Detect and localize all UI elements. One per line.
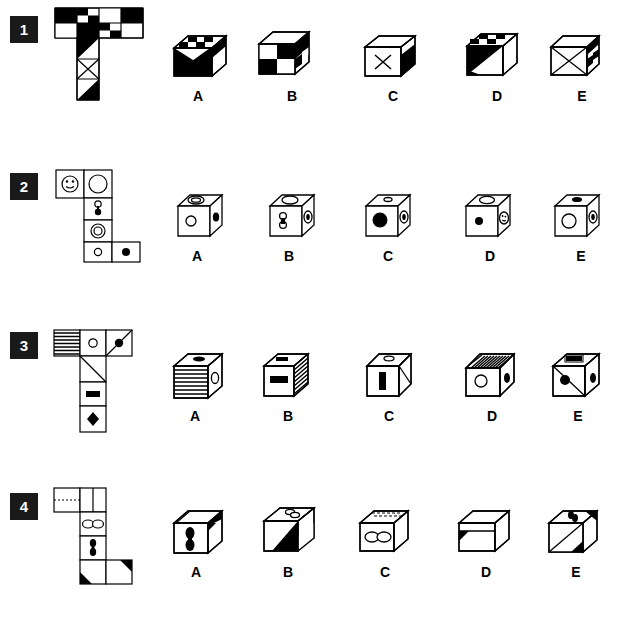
option-label-1-B: B <box>272 88 312 104</box>
question-number-badge-1: 1 <box>10 16 38 43</box>
option-label-3-D: D <box>472 408 512 424</box>
option-label-4-C: C <box>365 564 405 580</box>
option-cube-4-D[interactable] <box>457 507 517 559</box>
option-cube-4-B[interactable] <box>262 505 324 559</box>
option-label-1-A: A <box>178 88 218 104</box>
option-cube-4-C[interactable] <box>358 507 418 559</box>
question-row-3: 3 <box>0 320 621 480</box>
option-label-2-E: E <box>561 248 601 264</box>
question-number-badge-4: 4 <box>10 493 38 520</box>
option-label-4-D: D <box>466 564 506 580</box>
option-label-3-A: A <box>175 408 215 424</box>
question-number-badge-3: 3 <box>10 332 38 359</box>
option-cube-3-B[interactable] <box>262 350 324 404</box>
net-diagram-2 <box>56 170 148 262</box>
option-label-4-A: A <box>176 564 216 580</box>
option-label-1-E: E <box>562 88 602 104</box>
option-label-2-B: B <box>269 248 309 264</box>
option-cube-3-E[interactable] <box>551 350 607 404</box>
option-cube-3-C[interactable] <box>365 350 419 404</box>
option-label-1-D: D <box>477 88 517 104</box>
option-label-3-E: E <box>558 408 598 424</box>
option-label-4-E: E <box>556 564 596 580</box>
option-cube-2-C[interactable] <box>364 192 414 242</box>
option-label-3-C: C <box>369 408 409 424</box>
option-cube-1-A[interactable] <box>172 32 228 80</box>
question-number-badge-2: 2 <box>10 173 38 200</box>
option-cube-3-A[interactable] <box>172 350 230 404</box>
question-row-1: 1 <box>0 0 621 160</box>
test-sheet: 1 <box>0 0 621 643</box>
option-cube-2-D[interactable] <box>464 192 514 242</box>
option-cube-4-A[interactable] <box>172 507 230 559</box>
option-label-4-B: B <box>268 564 308 580</box>
option-cube-3-D[interactable] <box>464 350 522 404</box>
option-cube-1-B[interactable] <box>257 28 315 80</box>
net-diagram-1 <box>55 8 155 100</box>
option-cube-4-E[interactable] <box>547 507 607 559</box>
option-label-2-A: A <box>177 248 217 264</box>
option-label-3-B: B <box>268 408 308 424</box>
option-label-2-C: C <box>368 248 408 264</box>
option-cube-2-A[interactable] <box>176 192 226 242</box>
question-row-4: 4 <box>0 480 621 640</box>
option-label-1-C: C <box>373 88 413 104</box>
option-cube-2-B[interactable] <box>268 192 318 242</box>
option-cube-2-E[interactable] <box>553 192 603 242</box>
net-diagram-3 <box>54 330 146 432</box>
option-label-2-D: D <box>470 248 510 264</box>
net-diagram-4 <box>54 488 146 584</box>
option-cube-1-D[interactable] <box>465 30 523 80</box>
option-cube-1-E[interactable] <box>549 33 607 81</box>
question-row-2: 2 <box>0 160 621 320</box>
option-cube-1-C[interactable] <box>363 33 419 81</box>
